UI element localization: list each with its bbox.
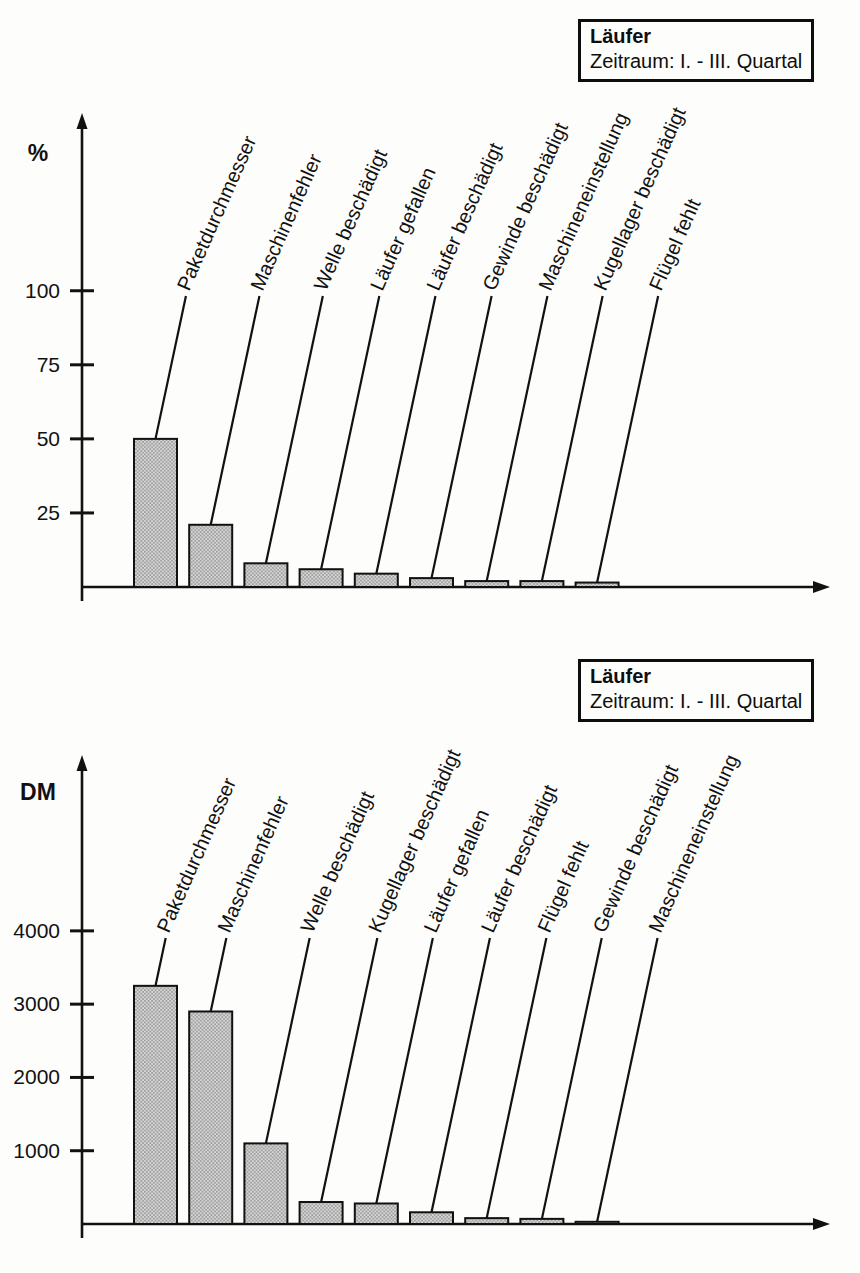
callout-line xyxy=(156,296,186,439)
callout-line xyxy=(321,296,379,569)
x-axis-arrowhead-icon xyxy=(813,581,830,593)
y-tick-label: 50 xyxy=(37,427,60,450)
category-label: Welle beschädigt xyxy=(296,787,378,935)
pareto-bar xyxy=(244,1143,287,1224)
pareto-bar xyxy=(410,578,453,587)
category-label: Flügel fehlt xyxy=(533,837,593,936)
callout-line xyxy=(597,296,658,583)
y-tick-label: 25 xyxy=(37,501,60,524)
pareto-bar xyxy=(189,525,232,587)
pareto-bar xyxy=(355,1203,398,1224)
pareto-percent-chart: %255075100PaketdurchmesserMaschinenfehle… xyxy=(0,0,860,640)
callout-line xyxy=(376,296,435,574)
pareto-bar xyxy=(300,1202,343,1224)
callout-line xyxy=(211,296,260,525)
callout-line xyxy=(266,938,310,1143)
legend-title: Läufer xyxy=(590,24,802,49)
y-tick-label: 4000 xyxy=(13,919,60,942)
y-tick-label: 100 xyxy=(25,279,60,302)
callout-line xyxy=(156,938,166,986)
pareto-bar xyxy=(465,1218,508,1224)
y-tick-label: 2000 xyxy=(13,1065,60,1088)
legend-box-dm: Läufer Zeitraum: I. - III. Quartal xyxy=(578,659,814,722)
pareto-bar xyxy=(134,439,177,587)
callout-line xyxy=(266,296,323,563)
callout-line xyxy=(211,938,227,1011)
legend-subtitle: Zeitraum: I. - III. Quartal xyxy=(590,689,802,714)
callout-line xyxy=(542,296,603,581)
scanned-page: %255075100PaketdurchmesserMaschinenfehle… xyxy=(0,0,860,1273)
pareto-bar xyxy=(520,1219,563,1224)
callout-line xyxy=(321,938,377,1202)
pareto-bar xyxy=(189,1011,232,1224)
y-axis-arrowhead-icon xyxy=(77,755,88,771)
callout-line xyxy=(487,938,547,1218)
callout-line xyxy=(542,938,602,1219)
pareto-bar xyxy=(465,581,508,587)
pareto-bar xyxy=(300,569,343,587)
callout-line xyxy=(432,296,492,578)
category-label: Paketdurchmesser xyxy=(172,132,260,294)
y-axis-unit-label: DM xyxy=(20,779,56,805)
pareto-bar xyxy=(244,563,287,587)
pareto-bar xyxy=(134,986,177,1224)
y-tick-label: 3000 xyxy=(13,992,60,1015)
legend-title: Läufer xyxy=(590,664,802,689)
pareto-bar xyxy=(355,574,398,587)
y-tick-label: 1000 xyxy=(13,1139,60,1162)
callout-line xyxy=(376,938,433,1203)
legend-subtitle: Zeitraum: I. - III. Quartal xyxy=(590,49,802,74)
y-tick-label: 75 xyxy=(37,353,60,376)
callout-line xyxy=(487,296,548,581)
category-label: Flügel fehlt xyxy=(645,195,705,294)
y-axis-arrowhead-icon xyxy=(77,113,88,129)
y-axis-unit-label: % xyxy=(28,140,48,166)
callout-line xyxy=(597,938,657,1222)
pareto-bar xyxy=(410,1212,453,1224)
pareto-percent-section: %255075100PaketdurchmesserMaschinenfehle… xyxy=(0,0,860,640)
pareto-bar xyxy=(576,583,619,587)
legend-box-percent: Läufer Zeitraum: I. - III. Quartal xyxy=(578,19,814,82)
pareto-bar xyxy=(520,581,563,587)
pareto-bar xyxy=(576,1222,619,1224)
pareto-dm-chart: DM1000200030004000PaketdurchmesserMaschi… xyxy=(0,640,860,1273)
x-axis-arrowhead-icon xyxy=(813,1218,830,1230)
callout-line xyxy=(432,938,490,1212)
pareto-dm-section: DM1000200030004000PaketdurchmesserMaschi… xyxy=(0,640,860,1273)
